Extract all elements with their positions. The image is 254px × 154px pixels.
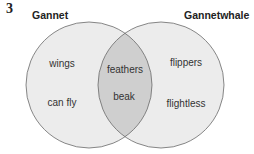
gannetwhale-item: flightless — [167, 98, 206, 109]
gannetwhale-title: Gannetwhale — [184, 9, 249, 21]
gannetwhale-item: flippers — [170, 57, 202, 68]
question-number: 3 — [6, 1, 13, 17]
venn-diagram — [0, 0, 254, 154]
gannet-item: can fly — [48, 97, 77, 108]
shared-item: feathers — [107, 64, 143, 75]
gannet-title: Gannet — [32, 9, 68, 21]
gannet-item: wings — [49, 58, 75, 69]
shared-item: beak — [113, 91, 135, 102]
